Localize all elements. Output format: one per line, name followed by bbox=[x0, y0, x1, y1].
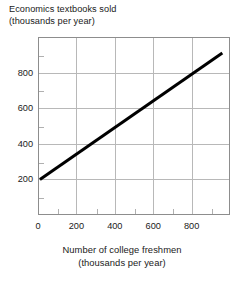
trend-line bbox=[40, 53, 222, 179]
data-series-line bbox=[0, 0, 244, 281]
x-axis-title-line-1: Number of college freshmen bbox=[0, 243, 244, 256]
x-axis-title-line-2: (thousands per year) bbox=[0, 256, 244, 269]
x-axis-title: Number of college freshmen (thousands pe… bbox=[0, 243, 244, 269]
chart-figure: Economics textbooks sold (thousands per … bbox=[0, 0, 244, 281]
